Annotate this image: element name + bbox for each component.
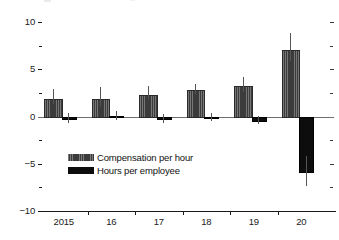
error-bar-hours: [163, 114, 164, 123]
legend-item: Compensation per hour: [68, 152, 193, 163]
right-axis-tick: [330, 164, 334, 165]
y-axis-minor-tick: [39, 140, 42, 141]
legend-swatch-comp: [68, 154, 94, 161]
x-axis-label: 16: [88, 217, 136, 227]
error-bar-hours: [211, 113, 212, 122]
bar-compensation-per-hour: [282, 50, 301, 118]
bar-hours-per-employee: [157, 117, 172, 121]
x-axis-tick: [230, 211, 231, 215]
x-axis-tick: [88, 211, 89, 215]
error-bar-compensation: [290, 33, 291, 60]
x-axis-label: 19: [230, 217, 278, 227]
x-axis-label: 2015: [40, 217, 88, 227]
error-bar-hours: [116, 111, 117, 120]
right-axis-minor-tick: [330, 140, 333, 141]
y-axis-label: −10: [4, 206, 35, 216]
bar-compensation-per-hour: [44, 99, 63, 118]
y-axis-label: −5: [4, 159, 35, 169]
right-axis-minor-tick: [330, 187, 333, 188]
error-bar-compensation: [148, 86, 149, 99]
x-axis-line: [38, 211, 336, 212]
y-axis-label: 10: [4, 17, 35, 27]
legend-label: Compensation per hour: [97, 153, 193, 163]
bar-compensation-per-hour: [234, 86, 253, 118]
error-bar-compensation: [195, 84, 196, 93]
bar-hours-per-employee: [62, 117, 77, 120]
bar-hours-per-employee: [204, 117, 219, 120]
right-axis-tick: [330, 22, 334, 23]
y-axis-minor-tick: [39, 187, 42, 188]
error-bar-compensation: [100, 87, 101, 106]
error-bar-hours: [68, 113, 69, 123]
y-axis-tick: [38, 22, 42, 23]
right-axis-minor-tick: [330, 93, 333, 94]
y-axis-minor-tick: [39, 46, 42, 47]
y-axis-label: 0: [4, 112, 35, 122]
error-bar-compensation: [53, 89, 54, 104]
bar-hours-per-employee: [252, 117, 267, 122]
y-axis-label: 5: [4, 64, 35, 74]
right-axis-minor-tick: [330, 46, 333, 47]
bar-hours-per-employee: [109, 116, 124, 119]
legend-label: Hours per employee: [97, 166, 180, 176]
bar-compensation-per-hour: [187, 90, 206, 118]
chart-legend: Compensation per hourHours per employee: [68, 152, 193, 178]
right-axis-tick: [330, 69, 334, 70]
legend-item: Hours per employee: [68, 165, 193, 176]
x-axis-tick: [183, 211, 184, 215]
y-axis-tick: [38, 69, 42, 70]
x-axis-tick: [278, 211, 279, 215]
error-bar-compensation: [243, 77, 244, 92]
error-bar-hours: [306, 156, 307, 186]
bar-compensation-per-hour: [92, 99, 111, 118]
x-axis-label: 18: [183, 217, 231, 227]
x-axis-label: 20: [278, 217, 326, 227]
bar-hours-per-employee: [299, 117, 314, 174]
y-axis-tick: [38, 164, 42, 165]
legend-swatch-hours: [68, 167, 94, 174]
x-axis-label: 17: [135, 217, 183, 227]
chart-figure: 1050−5−1020151617181920 Compensation per…: [0, 0, 339, 240]
error-bar-hours: [258, 116, 259, 125]
x-axis-tick: [135, 211, 136, 215]
plot-area: 1050−5−1020151617181920: [0, 0, 339, 240]
bar-compensation-per-hour: [139, 95, 158, 119]
y-axis-minor-tick: [39, 93, 42, 94]
